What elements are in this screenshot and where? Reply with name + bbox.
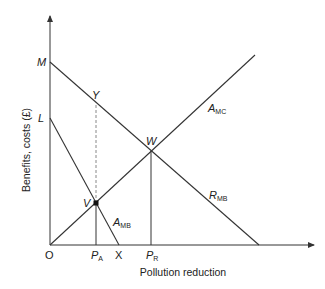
point-v-marker [94,201,99,206]
label-l: L [38,112,44,124]
amc-curve [50,55,255,245]
amb-label: AMB [112,216,131,229]
x-label: X [115,249,123,261]
pa-label: PA [91,249,103,262]
pr-label: PR [146,249,158,262]
origin-label: O [45,249,54,261]
rmb-curve [50,62,259,245]
amc-label: AMC [207,102,226,115]
pollution-diagram: M L Y W V O PA X PR AMC RMB AMB Benefits… [0,0,325,289]
x-axis-title: Pollution reduction [140,266,227,278]
y-axis-title: Benefits, costs (£) [20,108,32,192]
label-w: W [146,135,158,147]
label-y: Y [92,89,100,101]
rmb-label: RMB [209,189,228,202]
amb-curve [50,118,119,245]
label-m: M [37,56,47,68]
